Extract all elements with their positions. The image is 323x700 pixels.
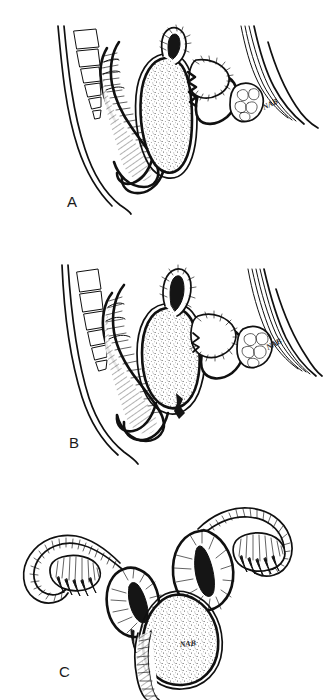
sacrum-vertebral-segments (74, 29, 101, 119)
broad-ligament (190, 311, 239, 361)
pubic-symphysis (230, 83, 263, 121)
figure-sheet: NAB A (0, 0, 323, 700)
panel-label-c: C (59, 663, 70, 680)
panel-label-a: A (67, 193, 78, 210)
panel-c: NAB (0, 473, 323, 700)
artist-signature: NAB (178, 638, 197, 649)
panel-b: NAB (0, 233, 323, 473)
panel-label-b: B (69, 434, 80, 451)
panel-a: NAB (0, 0, 323, 233)
